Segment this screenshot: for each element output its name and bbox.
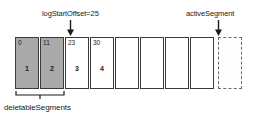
segment-cell: 01 bbox=[15, 37, 39, 89]
segment-strip: 01112233304 bbox=[15, 37, 243, 89]
segment-cell bbox=[140, 37, 164, 89]
active-segment-label: activeSegment bbox=[186, 9, 234, 18]
log-start-offset-arrow-icon bbox=[66, 20, 75, 36]
segment-cell bbox=[165, 37, 189, 89]
segment-cell: 233 bbox=[65, 37, 89, 89]
segment-index: 1 bbox=[16, 65, 38, 72]
segment-cell: 304 bbox=[90, 37, 114, 89]
segment-index: 3 bbox=[66, 65, 88, 72]
segment-cell-active bbox=[218, 37, 242, 89]
segment-base-offset: 0 bbox=[18, 39, 22, 46]
segment-base-offset: 30 bbox=[93, 39, 100, 46]
deletable-segments-label: deletableSegments bbox=[4, 103, 71, 112]
segment-cell: 112 bbox=[40, 37, 64, 89]
active-segment-arrow-icon bbox=[214, 20, 223, 36]
log-segments-diagram: logStartOffset=25 activeSegment 01112233… bbox=[0, 0, 260, 127]
segment-index: 4 bbox=[91, 65, 113, 72]
segment-base-offset: 11 bbox=[43, 39, 50, 46]
segment-cell bbox=[115, 37, 139, 89]
segment-index: 2 bbox=[41, 65, 63, 72]
deletable-segments-bracket-icon bbox=[15, 90, 65, 99]
segment-base-offset: 23 bbox=[68, 39, 75, 46]
segment-cell bbox=[190, 37, 214, 89]
log-start-offset-label: logStartOffset=25 bbox=[42, 9, 99, 18]
